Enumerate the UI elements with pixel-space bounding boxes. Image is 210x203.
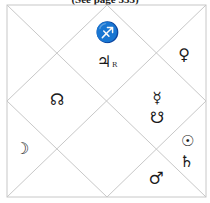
mercury-icon: ☿ [152, 91, 161, 106]
jupiter-retrograde: ♃R [97, 54, 118, 70]
ketu-icon: ☋ [150, 110, 164, 126]
retrograde-label: R [112, 61, 117, 69]
saturn-icon: ♄ [180, 154, 194, 170]
sun-icon: ☉ [181, 134, 194, 149]
venus-icon: ♀ [178, 47, 190, 63]
mars-icon: ♂ [148, 170, 163, 187]
jupiter-icon: ♃ [97, 52, 111, 71]
sagittarius-icon: ♐ [95, 22, 120, 42]
rahu-icon: ☊ [50, 92, 64, 108]
moon-icon: ☽ [15, 141, 29, 157]
